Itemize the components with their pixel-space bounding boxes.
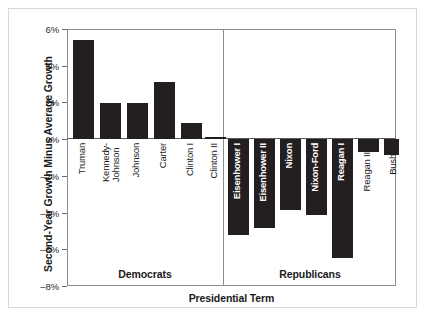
bar: [73, 40, 94, 139]
bar-chart: 6%4%2%0%–2%–4%–6%–8% TrumanKennedy- John…: [0, 0, 427, 318]
y-axis-tick-label: 6%: [45, 24, 59, 35]
bar: [127, 103, 148, 139]
bar: [154, 82, 175, 139]
y-axis-tick: [62, 29, 67, 30]
bar-category-label: Nixon-Ford: [310, 143, 320, 192]
y-axis-tick: [62, 66, 67, 67]
group-label-democrats: Democrats: [67, 268, 223, 280]
bar: [100, 103, 121, 139]
bar-category-label: Clinton I: [185, 143, 195, 176]
bar-category-label: Reagan I: [336, 143, 346, 181]
bar-category-label: Carter: [158, 143, 168, 168]
y-axis-tick: [62, 102, 67, 103]
bar: [205, 137, 226, 139]
bar-category-label: Eisenhower I: [232, 143, 242, 199]
bar: [384, 139, 399, 155]
bar-category-label: Bush: [388, 154, 398, 175]
y-axis-label: Second-Year Growth Minus Average Growth: [42, 44, 54, 284]
x-axis-label: Presidential Term: [67, 292, 396, 304]
y-axis-tick: [62, 249, 67, 250]
party-divider-line: [223, 29, 224, 286]
y-axis-tick: [62, 213, 67, 214]
bar-category-label: Eisenhower II: [258, 143, 268, 202]
y-axis-tick: [62, 139, 67, 140]
bar-category-label: Kennedy- Johnson: [101, 143, 120, 182]
bar-category-label: Reagan II: [362, 152, 372, 191]
bar: [181, 123, 202, 140]
group-label-republicans: Republicans: [224, 268, 396, 280]
bar-category-label: Nixon: [284, 143, 294, 168]
y-axis-tick: [62, 176, 67, 177]
y-axis-tick: [62, 286, 67, 287]
bar: [358, 139, 379, 152]
bar-category-label: Clinton II: [209, 143, 219, 179]
bar-category-label: Johnson: [131, 143, 141, 178]
bar-category-label: Truman: [77, 143, 87, 174]
